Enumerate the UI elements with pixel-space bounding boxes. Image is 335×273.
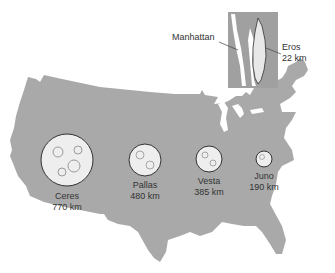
juno-name: Juno [244,171,284,182]
eros-size: 22 km [282,53,307,64]
vesta-size: 385 km [189,187,229,198]
juno-label: Juno 190 km [244,171,284,193]
eros-name: Eros [282,42,307,53]
vesta-asteroid [196,146,222,172]
ceres-label: Ceres 770 km [47,191,87,213]
manhattan-label: Manhattan [172,32,215,43]
pallas-asteroid [129,144,161,176]
pallas-size: 480 km [125,191,165,202]
ceres-name: Ceres [47,191,87,202]
juno-size: 190 km [244,182,284,193]
vesta-label: Vesta 385 km [189,176,229,198]
eros-label: Eros 22 km [282,42,307,64]
ceres-asteroid [41,134,93,186]
juno-asteroid [256,151,272,167]
ceres-size: 770 km [47,202,87,213]
pallas-name: Pallas [125,180,165,191]
pallas-label: Pallas 480 km [125,180,165,202]
vesta-name: Vesta [189,176,229,187]
us-map-diagram [0,0,335,273]
